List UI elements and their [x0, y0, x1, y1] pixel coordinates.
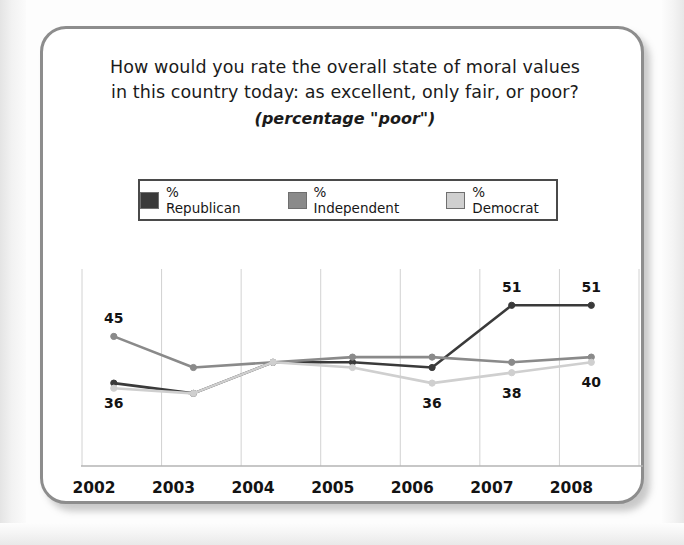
x-axis-tick-label: 2002	[72, 479, 115, 497]
legend-item-republican: % Republican	[140, 184, 258, 216]
series-point	[349, 354, 355, 360]
legend-label-democrat: % Democrat	[472, 184, 556, 216]
chart-title-block: How would you rate the overall state of …	[43, 55, 647, 131]
series-line	[114, 305, 592, 393]
x-axis-tick-label: 2004	[232, 479, 275, 497]
legend-swatch-independent	[288, 192, 307, 209]
chart-legend: % Republican % Independent % Democrat	[138, 179, 558, 221]
x-axis-tick-label: 2008	[550, 479, 593, 497]
series-point	[429, 380, 435, 386]
data-point-label: 45	[104, 310, 123, 326]
chart-card: How would you rate the overall state of …	[40, 26, 644, 504]
chart-plot-area: 36515145363840 2002200320042005200620072…	[43, 261, 647, 501]
legend-swatch-democrat	[446, 192, 465, 209]
legend-item-independent: % Independent	[288, 184, 417, 216]
series-point	[509, 302, 515, 308]
series-point	[509, 370, 515, 376]
line-chart-svg: 36515145363840 2002200320042005200620072…	[43, 261, 647, 501]
x-axis-tick-label: 2005	[311, 479, 354, 497]
data-point-label: 51	[582, 279, 601, 295]
series-point	[429, 354, 435, 360]
scan-edge-left	[0, 0, 26, 545]
data-point-label: 38	[502, 385, 521, 401]
series-point	[588, 302, 594, 308]
series-point	[270, 359, 276, 365]
series-point	[349, 364, 355, 370]
chart-series	[111, 302, 595, 396]
legend-swatch-republican	[140, 192, 159, 209]
x-axis-tick-label: 2006	[391, 479, 434, 497]
chart-x-tick-labels: 2002200320042005200620072008	[72, 479, 593, 497]
series-point	[429, 364, 435, 370]
data-point-label: 40	[582, 374, 602, 390]
x-axis-tick-label: 2003	[152, 479, 195, 497]
chart-title-line-2: in this country today: as excellent, onl…	[43, 80, 647, 105]
legend-label-independent: % Independent	[314, 184, 417, 216]
data-point-label: 36	[104, 395, 123, 411]
scan-edge-bottom	[0, 523, 684, 545]
x-axis-tick-label: 2007	[470, 479, 513, 497]
chart-subtitle: (percentage "poor")	[43, 106, 647, 131]
series-point	[509, 359, 515, 365]
data-point-label: 51	[502, 279, 521, 295]
series-point	[111, 333, 117, 339]
series-point	[588, 359, 594, 365]
scan-edge-right	[662, 0, 684, 545]
chart-title-line-1: How would you rate the overall state of …	[43, 55, 647, 80]
legend-label-republican: % Republican	[166, 184, 258, 216]
page-background: How would you rate the overall state of …	[0, 0, 684, 545]
series-point	[190, 390, 196, 396]
legend-item-democrat: % Democrat	[446, 184, 556, 216]
series-point	[190, 364, 196, 370]
series-point	[111, 385, 117, 391]
data-point-label: 36	[422, 395, 441, 411]
